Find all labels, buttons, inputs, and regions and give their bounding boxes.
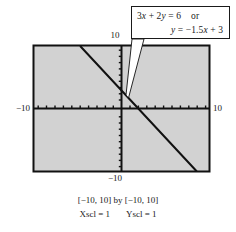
equation-connector-or: or [191, 11, 199, 21]
axis-label-x-max: 10 [213, 103, 233, 113]
equation-slope-intercept-text: y = −1.5x + 3 [171, 25, 223, 35]
caption-yscl: Yscl = 1 [126, 209, 157, 219]
equation-line-slope-intercept: y = −1.5x + 3 [137, 23, 225, 37]
axis-label-y-max: 10 [104, 30, 126, 40]
caption-xscl: Xscl = 1 [79, 209, 110, 219]
figure-caption: [−10, 10] by [−10, 10] Xscl = 1Yscl = 1 [0, 193, 236, 221]
axis-label-x-min: −10 [6, 103, 30, 113]
axis-label-y-min: −10 [100, 173, 130, 183]
equation-line-standard-form: 3x + 2y = 6or [137, 9, 225, 23]
caption-scale-settings: Xscl = 1Yscl = 1 [0, 207, 236, 221]
caption-window-range: [−10, 10] by [−10, 10] [0, 193, 236, 207]
graph-figure: 3x + 2y = 6or y = −1.5x + 3 10 −10 −10 1… [0, 0, 236, 232]
equation-standard-form-text: 3x + 2y = 6 [137, 11, 181, 21]
equation-callout-box: 3x + 2y = 6or y = −1.5x + 3 [131, 6, 230, 39]
